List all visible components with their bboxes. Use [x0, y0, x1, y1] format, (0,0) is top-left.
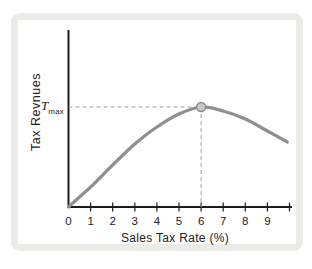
tmax-subscript: max: [48, 107, 64, 116]
x-tick-label: 6: [190, 215, 212, 227]
x-tick-label: 2: [102, 215, 124, 227]
x-tick-label: 4: [146, 215, 168, 227]
laffer-curve: [69, 107, 288, 207]
x-axis-title-text: Sales Tax Rate (%): [121, 231, 229, 245]
x-tick-label: 8: [234, 215, 256, 227]
x-tick-label: 5: [168, 215, 190, 227]
peak-marker: [197, 103, 206, 112]
x-tick-label: 3: [124, 215, 146, 227]
x-tick-label: 1: [80, 215, 102, 227]
x-tick-label: 0: [58, 215, 80, 227]
chart-canvas: [0, 0, 312, 269]
x-tick-label: 9: [256, 215, 278, 227]
x-tick-label: 7: [212, 215, 234, 227]
tmax-label: Tmax: [41, 98, 64, 116]
laffer-curve-figure: Tax Revnues Tmax Sales Tax Rate (%) 0123…: [0, 0, 312, 269]
x-axis-title: Sales Tax Rate (%): [121, 231, 229, 245]
